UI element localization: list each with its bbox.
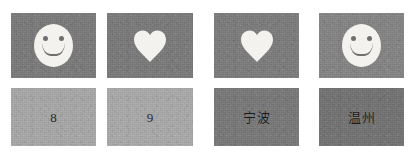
image-tile-numeral-9: 9 — [107, 88, 193, 146]
image-tile-smiley-left — [11, 13, 96, 78]
smiley-face-icon — [342, 24, 381, 67]
image-tile-smiley-right — [319, 13, 404, 78]
tile-text-numeral: 8 — [50, 111, 57, 124]
symbol-layer — [107, 13, 193, 78]
text-layer: 8 — [11, 88, 96, 146]
symbol-layer — [11, 13, 96, 78]
smiley-mouth — [350, 43, 373, 56]
smiley-left-eye — [43, 36, 48, 41]
image-tile-heart-left — [107, 13, 193, 78]
image-tile-hanzi-ningbo: 宁波 — [214, 88, 299, 146]
smiley-mouth — [42, 43, 65, 56]
text-layer: 宁波 — [214, 88, 299, 146]
text-layer: 温州 — [319, 88, 404, 146]
text-layer: 9 — [107, 88, 193, 146]
image-tile-hanzi-wenzhou: 温州 — [319, 88, 404, 146]
image-tile-numeral-8: 8 — [11, 88, 96, 146]
smiley-right-eye — [59, 36, 64, 41]
tile-text-hanzi: 宁波 — [243, 111, 271, 124]
image-tile-heart-right — [214, 13, 299, 78]
symbol-layer — [319, 13, 404, 78]
image-tile-grid: 8 9 宁波 温州 — [0, 0, 419, 159]
tile-text-hanzi: 温州 — [348, 111, 376, 124]
heart-icon — [239, 29, 275, 62]
smiley-left-eye — [351, 36, 356, 41]
smiley-face-icon — [34, 24, 73, 67]
heart-icon — [132, 29, 168, 62]
smiley-right-eye — [367, 36, 372, 41]
symbol-layer — [214, 13, 299, 78]
tile-text-numeral: 9 — [147, 111, 154, 124]
